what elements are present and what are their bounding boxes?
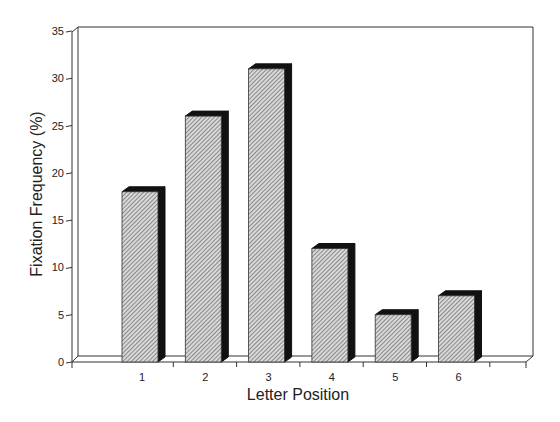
bar xyxy=(312,244,355,362)
bar-chart: 05101520253035 123456 Letter Position Fi… xyxy=(0,0,560,422)
bar xyxy=(439,291,482,362)
y-tick xyxy=(66,362,72,363)
y-tick-label: 10 xyxy=(52,261,64,273)
x-tick-label: 5 xyxy=(392,371,398,383)
y-tick-label: 35 xyxy=(52,25,64,37)
y-tick xyxy=(66,126,72,127)
y-axis-title: Fixation Frequency (%) xyxy=(28,111,45,276)
bar xyxy=(249,64,292,362)
y-tick xyxy=(66,220,72,221)
bar xyxy=(375,310,418,362)
y-tick xyxy=(66,315,72,316)
x-axis-title: Letter Position xyxy=(247,386,349,403)
y-tick-label: 5 xyxy=(58,309,64,321)
y-tick xyxy=(66,173,72,174)
y-tick-label: 25 xyxy=(52,120,64,132)
bar-series xyxy=(122,64,482,362)
y-tick xyxy=(66,78,72,79)
y-tick-label: 0 xyxy=(58,356,64,368)
x-tick-label: 4 xyxy=(329,371,335,383)
y-tick-label: 30 xyxy=(52,72,64,84)
x-tick-label: 3 xyxy=(266,371,272,383)
y-tick xyxy=(66,31,72,32)
y-axis: 05101520253035 xyxy=(52,25,72,368)
bar xyxy=(122,187,165,362)
y-tick-label: 15 xyxy=(52,214,64,226)
bar xyxy=(185,111,228,362)
y-tick xyxy=(66,267,72,268)
x-axis: 123456 xyxy=(72,362,526,383)
x-tick-label: 2 xyxy=(202,371,208,383)
x-tick-label: 6 xyxy=(455,371,461,383)
y-tick-label: 20 xyxy=(52,167,64,179)
x-tick-label: 1 xyxy=(139,371,145,383)
